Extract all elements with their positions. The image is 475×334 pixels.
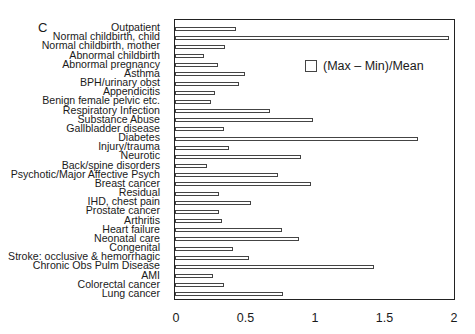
bar — [175, 173, 278, 177]
bar — [175, 283, 224, 287]
bar — [175, 182, 311, 186]
bar — [175, 228, 282, 232]
x-tick-label: 0.5 — [237, 311, 254, 325]
bar — [175, 210, 219, 214]
bar — [175, 274, 213, 278]
bar — [175, 146, 229, 150]
x-tick-label: 1.5 — [376, 311, 393, 325]
bar — [175, 127, 224, 131]
bar — [175, 118, 313, 122]
category-label: Lung cancer — [102, 288, 160, 299]
bar — [175, 155, 301, 159]
bar — [175, 247, 233, 251]
bar — [175, 237, 299, 241]
bar — [175, 36, 449, 40]
bar — [175, 201, 251, 205]
legend: (Max – Min)/Mean — [305, 59, 424, 73]
bar — [175, 27, 236, 31]
bar — [175, 219, 222, 223]
bar — [175, 82, 239, 86]
bar — [175, 54, 204, 58]
bar — [175, 192, 219, 196]
x-tick-label: 2 — [451, 311, 458, 325]
bar — [175, 292, 283, 296]
bar — [175, 109, 270, 113]
bar — [175, 63, 218, 67]
bar — [175, 100, 211, 104]
bar — [175, 45, 225, 49]
panel-label: C — [38, 20, 47, 35]
legend-swatch — [305, 60, 317, 72]
x-tick-label: 0 — [173, 311, 180, 325]
bar — [175, 164, 207, 168]
bar — [175, 72, 245, 76]
x-tick-label: 1 — [312, 311, 319, 325]
bar — [175, 91, 215, 95]
bar — [175, 265, 374, 269]
legend-label: (Max – Min)/Mean — [323, 59, 424, 73]
bar — [175, 256, 249, 260]
bar — [175, 137, 418, 141]
